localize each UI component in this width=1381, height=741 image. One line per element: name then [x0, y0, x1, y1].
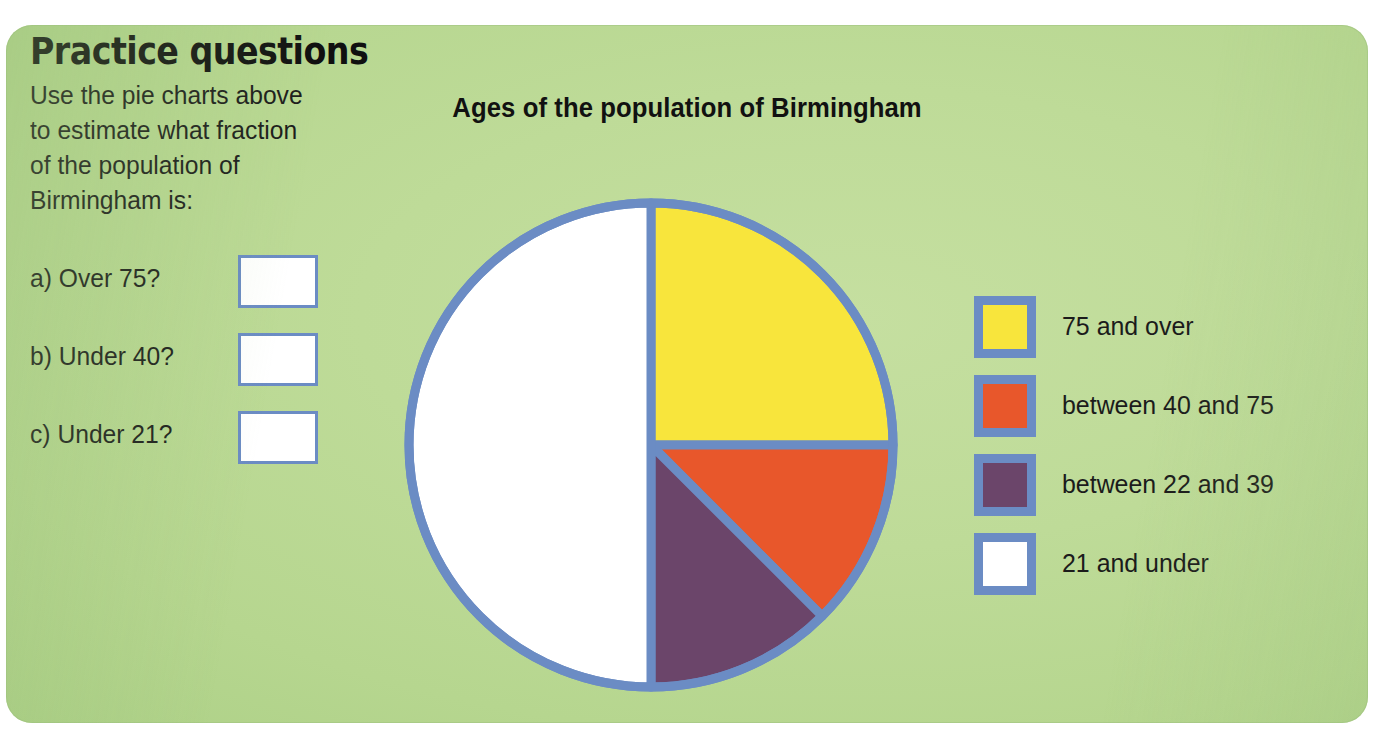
- pie-chart-svg: [397, 191, 905, 699]
- legend-swatch-yellow: [974, 296, 1036, 358]
- practice-questions-panel: Practice questions Use the pie charts ab…: [6, 25, 1368, 723]
- answer-box-c[interactable]: [238, 411, 318, 464]
- legend-swatch-white: [974, 533, 1036, 595]
- question-label-a: a) Over 75?: [30, 263, 160, 294]
- legend-item-21-and-under: 21 and under: [974, 524, 1287, 603]
- legend-label-between-22-and-39: between 22 and 39: [1062, 469, 1274, 500]
- legend-swatch-orange: [974, 375, 1036, 437]
- legend-label-21-and-under: 21 and under: [1062, 548, 1209, 579]
- page-title: Practice questions: [30, 33, 354, 70]
- legend-label-between-40-and-75: between 40 and 75: [1062, 390, 1274, 421]
- pie-chart: [397, 191, 905, 699]
- question-row-b: b) Under 40?: [30, 325, 370, 403]
- legend-swatch-purple: [974, 454, 1036, 516]
- question-label-b: b) Under 40?: [30, 341, 174, 372]
- answer-box-a[interactable]: [238, 255, 318, 308]
- question-row-c: c) Under 21?: [30, 403, 370, 481]
- questions-list: a) Over 75? b) Under 40? c) Under 21?: [30, 247, 370, 481]
- question-row-a: a) Over 75?: [30, 247, 370, 325]
- answer-box-b[interactable]: [238, 333, 318, 386]
- question-label-c: c) Under 21?: [30, 419, 172, 450]
- pie-slice: [409, 203, 651, 687]
- page-root: Practice questions Use the pie charts ab…: [0, 0, 1381, 741]
- legend-label-75-and-over: 75 and over: [1062, 311, 1194, 342]
- left-column: Practice questions Use the pie charts ab…: [30, 33, 390, 218]
- legend-item-between-40-and-75: between 40 and 75: [974, 366, 1287, 445]
- chart-legend: 75 and over between 40 and 75 between 22…: [974, 287, 1287, 603]
- chart-title: Ages of the population of Birmingham: [40, 93, 1334, 124]
- legend-item-between-22-and-39: between 22 and 39: [974, 445, 1287, 524]
- legend-item-75-and-over: 75 and over: [974, 287, 1287, 366]
